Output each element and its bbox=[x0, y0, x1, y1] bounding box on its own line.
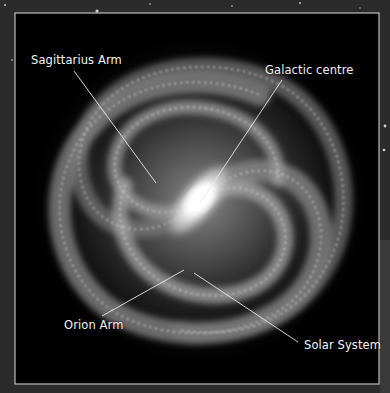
outer-lower-right-shade bbox=[380, 240, 390, 393]
label-solar-system: Solar System bbox=[304, 338, 381, 352]
label-galactic-centre: Galactic centre bbox=[265, 63, 353, 77]
label-orion-arm: Orion Arm bbox=[64, 318, 123, 332]
label-sagittarius-arm: Sagittarius Arm bbox=[31, 53, 122, 67]
